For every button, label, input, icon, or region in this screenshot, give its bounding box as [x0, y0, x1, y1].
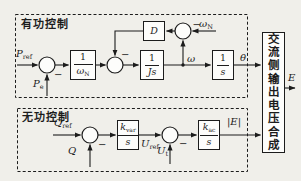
- minus-sign: −: [193, 20, 201, 30]
- minus-sign: −: [98, 140, 106, 150]
- damping-block: D: [143, 21, 165, 41]
- omega-label: ω: [187, 54, 195, 64]
- inertia-block: 1 Js: [140, 50, 164, 80]
- summing-junction-omega: [175, 23, 191, 39]
- summing-junction-q: [82, 127, 98, 143]
- omega-tap-node: [181, 63, 184, 66]
- theta-label: θ: [240, 53, 246, 63]
- omega-n-label: ωN: [199, 19, 213, 31]
- p-ref-label: Pref: [16, 49, 32, 61]
- ac-voltage-synthesis-label: 交流侧输出电压合成: [267, 33, 280, 152]
- minus-sign: −: [54, 70, 62, 80]
- e-magnitude-label: |E|: [227, 117, 241, 127]
- inv-omega-n-block: 1 ωN: [70, 50, 96, 80]
- minus-sign: −: [121, 50, 129, 60]
- e-output-label: E: [288, 73, 295, 83]
- active-power-section-title: 有功控制: [21, 19, 69, 30]
- q-ref-label: Qref: [54, 118, 72, 130]
- integrator-block: 1 s: [212, 50, 234, 80]
- ac-voltage-synthesis-block: 交流侧输出电压合成: [262, 32, 285, 153]
- minus-sign: −: [179, 139, 187, 149]
- k-ac-block: kac s: [198, 120, 220, 150]
- summing-junction-u: [162, 127, 178, 143]
- q-label: Q: [68, 146, 76, 156]
- vsg-control-block-diagram: 有功控制 无功控制 D 1 ωN 1 Js 1 s kvar s kac s: [0, 0, 301, 181]
- u-t-label: Ut: [157, 146, 168, 158]
- k-var-block: kvar s: [117, 120, 139, 150]
- summing-junction-p: [39, 57, 55, 73]
- p-e-label: Pe: [33, 79, 44, 91]
